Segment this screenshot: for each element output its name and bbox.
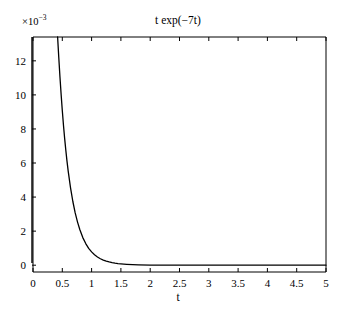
x-tick-label-9: 4.5: [282, 278, 312, 289]
x-tick-label-2: 1: [77, 278, 107, 289]
x-tick-label-3: 1.5: [106, 278, 136, 289]
y-tick-label-3: 6: [4, 158, 26, 169]
x-tick-label-8: 4: [252, 278, 282, 289]
x-tick-label-6: 3: [194, 278, 224, 289]
x-tick-label-5: 2.5: [165, 278, 195, 289]
y-tick-label-4: 8: [4, 124, 26, 135]
x-tick-label-7: 3.5: [223, 278, 253, 289]
x-tick-label-10: 5: [311, 278, 341, 289]
x-axis-label: t: [148, 292, 208, 304]
chart-title: t exp(−7t): [110, 15, 246, 27]
data-series-line: [58, 37, 326, 265]
chart-canvas: [0, 0, 352, 318]
y-axis-exponent-label: ×10−3: [22, 14, 46, 27]
figure: ×10−3 t exp(−7t) t 024681012 00.511.522.…: [0, 0, 352, 318]
y-exponent-superscript: −3: [38, 13, 46, 22]
y-tick-label-5: 10: [4, 90, 26, 101]
y-tick-label-0: 0: [4, 260, 26, 271]
y-tick-label-1: 2: [4, 226, 26, 237]
y-tick-label-6: 12: [4, 56, 26, 67]
x-tick-label-4: 2: [135, 278, 165, 289]
y-tick-label-2: 4: [4, 192, 26, 203]
x-tick-label-1: 0.5: [47, 278, 77, 289]
x-tick-label-0: 0: [18, 278, 48, 289]
